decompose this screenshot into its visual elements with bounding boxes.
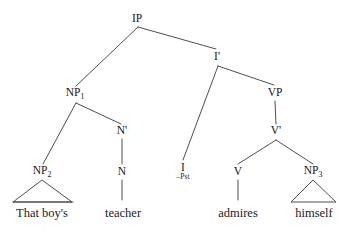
tree-node-np1: NP1: [66, 87, 85, 100]
node-label-text: V': [271, 124, 281, 136]
tree-edge-NP1-to-NP2: [43, 103, 76, 164]
tree-edge-Vbar-to-V: [238, 140, 276, 164]
tree-node-n: N: [118, 166, 126, 178]
node-label-text: NP: [66, 86, 81, 98]
terminal-teacher: teacher: [105, 207, 141, 220]
tree-node-ibar: I': [214, 51, 220, 63]
tri-np2: [13, 180, 72, 202]
tree-node-v: V: [234, 166, 242, 178]
node-label-text: V: [234, 165, 242, 177]
tree-node-nbar: N': [117, 125, 127, 137]
tree-node-vp: VP: [268, 87, 283, 99]
node-feature-text: –Pst: [176, 173, 190, 181]
tree-edge-Ibar-to-I: [183, 66, 218, 160]
node-label-text: IP: [132, 12, 142, 24]
node-label-text: NP: [304, 164, 319, 176]
tree-edge-Vbar-to-NP3: [276, 140, 313, 164]
tree-triangles: [13, 180, 336, 202]
syntax-tree-canvas: [0, 0, 357, 234]
terminal-himself: himself: [295, 207, 333, 220]
tree-edge-Ibar-to-VP: [218, 66, 274, 85]
node-label-text: NP: [33, 164, 48, 176]
tree-edge-IP-to-Ibar: [138, 27, 216, 49]
tree-node-ip: IP: [132, 13, 142, 25]
tree-node-vbar: V': [271, 125, 281, 137]
tri-np3: [291, 180, 336, 202]
node-label-text: I': [214, 50, 220, 62]
node-label-subscript: 2: [47, 170, 51, 179]
node-label-text: N: [118, 165, 126, 177]
tree-node-i: I–Pst: [176, 161, 190, 181]
tree-edge-NP1-to-Nbar: [76, 103, 121, 124]
node-label-subscript: 3: [318, 170, 322, 179]
node-label-text: N': [117, 124, 127, 136]
terminal-admires: admires: [218, 207, 258, 220]
tree-node-np2: NP2: [33, 165, 52, 178]
node-label-subscript: 1: [80, 92, 84, 101]
node-label-text: VP: [268, 86, 283, 98]
tree-edge-IP-to-NP1: [76, 27, 138, 86]
tree-node-np3: NP3: [304, 165, 323, 178]
terminal-that-boys: That boy's: [16, 207, 68, 220]
tree-edge-VP-to-Vbar: [275, 101, 276, 124]
